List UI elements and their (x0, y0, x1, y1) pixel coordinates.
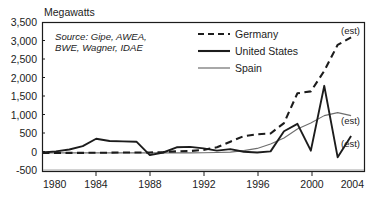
estimate-annotations: (est) (est) (est) (341, 25, 360, 149)
legend: Germany United States Spain (198, 28, 298, 74)
y-axis-title: Megawatts (44, 6, 95, 18)
legend-label-spain: Spain (235, 62, 262, 74)
x-axis-ticks (96, 172, 312, 177)
chart-canvas: 3,500 3,000 2,500 2,000 1,500 1,000 500 … (0, 0, 387, 209)
est-label-spain: (est) (341, 115, 360, 126)
y-tick-label: 0 (31, 146, 37, 158)
x-tick-label: 1984 (84, 178, 108, 190)
x-tick-label: 1988 (138, 178, 162, 190)
y-tick-label: 1,000 (11, 109, 37, 121)
wind-capacity-chart: 3,500 3,000 2,500 2,000 1,500 1,000 500 … (0, 0, 387, 209)
est-label-germany: (est) (341, 25, 360, 36)
y-axis-tick-labels: 3,500 3,000 2,500 2,000 1,500 1,000 500 … (11, 16, 37, 176)
y-tick-label: 2,500 (11, 53, 37, 65)
est-label-united-states: (est) (341, 138, 360, 149)
x-tick-label: 2004 (341, 178, 365, 190)
y-tick-label: 3,500 (11, 16, 37, 28)
series-line-germany (43, 37, 352, 152)
x-axis-tick-labels: 1980 1984 1988 1992 1996 2000 2004 (43, 178, 364, 190)
y-tick-label: 1,500 (11, 90, 37, 102)
x-tick-label: 1980 (43, 178, 67, 190)
y-tick-label: 2,000 (11, 72, 37, 84)
y-tick-label: 3,000 (11, 35, 37, 47)
legend-label-germany: Germany (235, 28, 279, 40)
y-tick-label: -500 (16, 164, 37, 176)
x-tick-label: 1996 (246, 178, 270, 190)
source-note: Source: Gipe, AWEA, BWE, Wagner, IDAE (55, 31, 147, 53)
series-line-united-states (43, 86, 352, 158)
legend-label-united-states: United States (235, 45, 298, 57)
x-tick-label: 1992 (192, 178, 216, 190)
x-tick-label: 2000 (300, 178, 324, 190)
y-tick-label: 500 (19, 127, 37, 139)
source-note-line-2: BWE, Wagner, IDAE (55, 42, 143, 53)
source-note-line-1: Source: Gipe, AWEA, (55, 31, 147, 42)
